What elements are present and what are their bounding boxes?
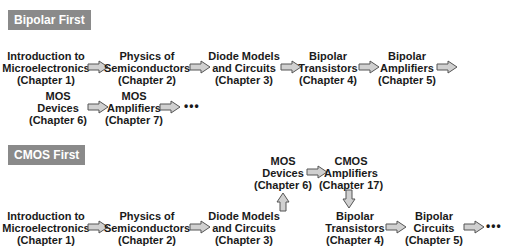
right-arrow-icon (436, 60, 458, 74)
ellipsis: ••• (184, 99, 200, 113)
right-arrow-icon (463, 220, 485, 234)
cmos-ch1-node: Introduction to Microelectronics (Chapte… (2, 210, 89, 246)
cmos-ch5-node: Bipolar Circuits (Chapter 5) (405, 210, 463, 246)
bipolar-ch4-node: Bipolar Transistors (Chapter 4) (298, 50, 357, 86)
bipolar-ch2-node: Physics of Semiconductors (Chapter 2) (104, 50, 190, 86)
right-arrow-icon (358, 60, 380, 74)
bipolar-ch3-node: Diode Models and Circuits (Chapter 3) (208, 50, 280, 86)
bipolar-ch1-node: Introduction to Microelectronics (Chapte… (2, 50, 89, 86)
right-arrow-icon (385, 220, 407, 234)
bipolar-ch5-node: Bipolar Amplifiers (Chapter 5) (378, 50, 436, 86)
cmos-ch3-node: Diode Models and Circuits (Chapter 3) (208, 210, 280, 246)
ellipsis: ••• (486, 219, 502, 233)
cmos-ch17-node: CMOS Amplifiers (Chapter 17) (319, 155, 383, 191)
cmos-ch4-node: Bipolar Transistors (Chapter 4) (325, 210, 384, 246)
cmos-first-badge: CMOS First (8, 145, 85, 165)
bipolar-ch7-node: MOS Amplifiers (Chapter 7) (105, 90, 163, 126)
bipolar-ch6-node: MOS Devices (Chapter 6) (29, 90, 87, 126)
up-arrow-icon (276, 192, 290, 212)
right-arrow-icon (159, 100, 181, 114)
cmos-ch2-node: Physics of Semiconductors (Chapter 2) (104, 210, 190, 246)
down-arrow-icon (342, 189, 356, 209)
cmos-ch6-node: MOS Devices (Chapter 6) (254, 155, 312, 191)
bipolar-first-badge: Bipolar First (8, 10, 91, 30)
